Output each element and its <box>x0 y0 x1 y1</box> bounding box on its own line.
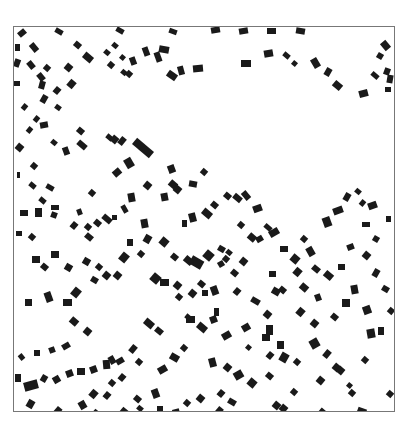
building-footprint <box>168 352 179 363</box>
building-footprint <box>350 284 358 294</box>
building-footprint <box>72 40 81 49</box>
building-footprint <box>142 180 152 190</box>
building-footprint <box>137 250 145 258</box>
building-footprint <box>175 293 183 301</box>
building-footprint <box>70 286 82 298</box>
building-footprint <box>112 215 117 220</box>
building-footprint <box>48 346 56 354</box>
building-footprint <box>69 316 80 327</box>
building-footprint <box>135 358 143 366</box>
building-footprint <box>45 183 54 191</box>
building-footprint <box>76 139 88 150</box>
building-footprint <box>157 406 163 413</box>
building-footprint <box>118 53 125 60</box>
building-footprint <box>323 67 332 77</box>
building-footprint <box>127 239 133 246</box>
building-footprint <box>28 233 36 241</box>
building-footprint <box>51 251 59 258</box>
building-footprint <box>193 64 204 72</box>
building-footprint <box>366 328 375 338</box>
building-footprint <box>140 218 148 228</box>
building-footprint <box>209 285 219 296</box>
building-footprint <box>361 250 371 260</box>
building-footprint <box>371 268 380 278</box>
building-footprint <box>82 326 92 336</box>
building-footprint <box>299 282 310 293</box>
building-footprint <box>362 222 370 227</box>
building-footprint <box>202 249 215 262</box>
building-footprint <box>278 351 289 363</box>
building-footprint <box>69 220 78 229</box>
building-footprint <box>132 394 141 403</box>
building-footprint <box>88 189 96 197</box>
building-footprint <box>201 207 213 219</box>
building-footprint <box>52 85 61 94</box>
building-footprint <box>380 285 389 294</box>
building-footprint <box>35 210 42 217</box>
building-footprint <box>150 388 160 399</box>
building-footprint <box>32 256 40 263</box>
building-footprint <box>50 211 58 219</box>
building-footprint <box>264 371 273 380</box>
building-footprint <box>25 299 32 306</box>
building-footprint <box>322 216 333 228</box>
building-footprint <box>311 264 321 274</box>
building-footprint <box>345 381 352 388</box>
building-footprint <box>168 27 177 34</box>
building-footprint <box>342 299 350 307</box>
building-footprint <box>266 325 273 335</box>
building-footprint <box>376 52 384 60</box>
building-footprint <box>39 262 48 271</box>
building-footprint <box>386 216 391 222</box>
building-footprint <box>182 220 187 227</box>
building-footprint <box>232 369 244 380</box>
building-footprint <box>129 56 137 66</box>
building-footprint <box>39 94 48 104</box>
building-footprint <box>195 393 205 403</box>
building-footprint <box>262 309 272 319</box>
building-footprint <box>40 373 49 382</box>
building-footprint <box>51 374 61 384</box>
building-footprint <box>289 253 300 264</box>
building-footprint <box>65 369 74 378</box>
building-footprint <box>28 181 37 189</box>
building-footprint <box>210 26 220 33</box>
building-footprint <box>309 318 319 328</box>
building-footprint <box>317 407 326 412</box>
building-footprint <box>54 27 63 35</box>
building-footprint <box>290 59 297 66</box>
building-footprint <box>107 61 115 69</box>
building-footprint <box>14 142 24 152</box>
building-footprint <box>125 70 133 78</box>
building-footprint <box>95 263 103 271</box>
building-footprint <box>277 341 284 349</box>
building-footprint <box>169 252 178 261</box>
building-footprint <box>111 41 119 49</box>
building-footprint <box>367 200 378 210</box>
building-footprint <box>315 375 325 385</box>
building-footprint <box>20 103 28 111</box>
building-footprint <box>23 379 39 391</box>
building-footprint <box>63 62 73 72</box>
building-footprint <box>187 288 197 298</box>
building-footprint <box>153 51 162 62</box>
building-footprint <box>222 362 232 372</box>
building-footprint <box>300 235 308 243</box>
building-footprint <box>209 200 218 209</box>
building-footprint <box>379 39 390 50</box>
building-footprint <box>196 279 205 288</box>
building-footprint <box>117 372 126 381</box>
building-footprint <box>202 290 208 296</box>
building-footprint <box>172 280 182 290</box>
building-footprint <box>154 326 164 336</box>
building-footprint <box>322 349 332 359</box>
building-footprint <box>40 121 49 128</box>
building-footprint <box>81 256 91 266</box>
building-footprint <box>166 69 178 80</box>
building-footprint <box>207 357 216 368</box>
building-footprint <box>346 243 355 251</box>
building-footprint <box>54 103 62 111</box>
building-footprint <box>244 343 251 350</box>
building-footprint <box>112 270 122 280</box>
building-footprint <box>214 308 219 316</box>
